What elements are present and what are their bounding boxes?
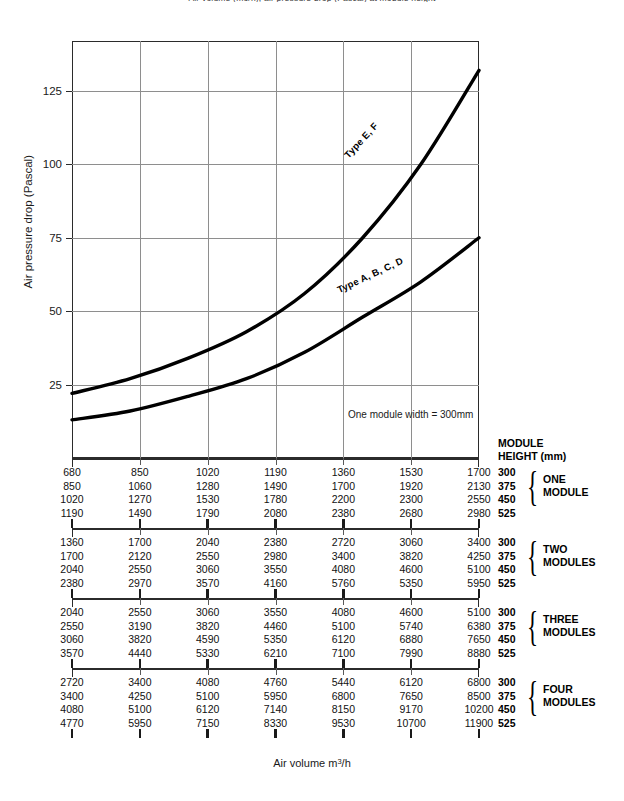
air-volume-cell: 2300 [399,493,422,507]
air-volume-cell: 1270 [128,493,151,507]
air-volume-cell: 5100 [332,620,355,634]
air-volume-cell: 10200 [464,703,493,717]
module-height-value: 450 [498,703,516,717]
air-volume-cell: 2980 [264,550,287,564]
bracket-leg [411,528,412,535]
y-axis-tick-label: 25 [49,379,62,391]
bracket-leg [140,668,141,675]
x-axis-tick [274,519,276,528]
bracket-leg [208,668,209,675]
bracket-leg [411,668,412,675]
air-volume-cell: 1700 [128,536,151,550]
module-group-label-line2: MODULE [543,486,589,499]
air-volume-cell: 2040 [60,563,83,577]
air-volume-cell: 1700 [332,480,355,494]
x-axis-tick [342,659,344,668]
x-axis-tick [139,519,141,528]
block-axis-ticks [72,589,479,598]
air-volume-cell: 3820 [196,620,219,634]
bracket-leg [140,458,141,465]
air-volume-cell: 5100 [467,563,490,577]
air-volume-cell: 1360 [332,466,355,480]
air-volume-cell: 3190 [128,620,151,634]
air-volume-cell: 2550 [60,620,83,634]
air-volume-cell: 2550 [128,606,151,620]
air-volume-cell: 3060 [196,606,219,620]
air-volume-cell: 6120 [399,676,422,690]
module-height-value: 525 [498,577,516,591]
bracket-leg [208,598,209,605]
bracket-leg [276,598,277,605]
air-volume-cell: 4590 [196,633,219,647]
x-axis-tick [139,729,141,738]
bracket-leg [208,528,209,535]
air-volume-cell: 1530 [196,493,219,507]
air-volume-cell: 9170 [399,703,422,717]
module-height-value: 525 [498,507,516,521]
air-volume-cell: 1920 [399,480,422,494]
air-volume-cell: 1530 [399,466,422,480]
air-volume-cell: 2550 [467,493,490,507]
air-volume-cell: 4080 [332,606,355,620]
module-header-line1: MODULE [498,437,566,450]
air-volume-cell: 6380 [467,620,490,634]
block-axis-ticks [72,659,479,668]
bracket-leg [276,528,277,535]
x-axis-title-prefix: Air volume m [273,757,337,769]
module-height-value: 375 [498,690,516,704]
air-volume-cell: 1190 [264,466,287,480]
curve-series-type-ef [72,70,479,393]
air-volume-cell: 2130 [467,480,490,494]
bracket-leg [208,458,209,465]
x-axis-tick [410,659,412,668]
bracket-leg [276,458,277,465]
bracket-leg [140,598,141,605]
y-axis-tick-label: 50 [49,305,62,317]
x-axis-tick [139,659,141,668]
air-volume-cell: 4080 [196,676,219,690]
module-height-value: 375 [498,620,516,634]
data-table-blocks: 6808501020119013601530170030085010601280… [0,458,624,738]
module-group-label-line1: FOUR [543,683,596,696]
air-volume-cell: 3400 [332,550,355,564]
x-axis-tick [274,729,276,738]
air-volume-cell: 5950 [264,690,287,704]
bracket-leg [343,598,344,605]
air-volume-cell: 1700 [60,550,83,564]
x-axis-tick [342,729,344,738]
x-axis-tick [206,659,208,668]
module-group-label-line1: ONE [543,473,589,486]
y-axis-tick-label: 75 [49,232,62,244]
air-volume-cell: 5100 [128,703,151,717]
module-height-value: 450 [498,493,516,507]
module-group-label-line2: MODULES [543,696,596,709]
module-height-value: 375 [498,480,516,494]
bracket-leg [343,528,344,535]
module-height-value: 300 [498,606,516,620]
module-group-label: ONEMODULE [543,473,589,498]
x-axis-tick [71,589,73,598]
bracket-leg [343,668,344,675]
block-axis-ticks [72,729,479,738]
air-volume-cell: 3820 [399,550,422,564]
bracket-leg [411,458,412,465]
air-volume-cell: 6800 [332,690,355,704]
air-volume-cell: 4600 [399,563,422,577]
x-axis-tick [206,729,208,738]
bracket-leg [276,668,277,675]
air-volume-cell: 4760 [264,676,287,690]
x-axis-tick [478,589,480,598]
module-group-label: THREEMODULES [543,613,596,638]
block-axis-ticks [72,519,479,528]
air-volume-cell: 2200 [332,493,355,507]
air-volume-cell: 2550 [128,563,151,577]
air-volume-cell: 2040 [60,606,83,620]
air-volume-cell: 850 [131,466,149,480]
air-volume-cell: 2040 [196,536,219,550]
x-axis-tick [478,659,480,668]
air-volume-cell: 3400 [128,676,151,690]
curve-layer [72,41,479,458]
top-caption: Air volume (m3/h), air pressure drop (Pa… [0,0,624,2]
air-volume-cell: 7650 [399,690,422,704]
bracket-leg [343,458,344,465]
